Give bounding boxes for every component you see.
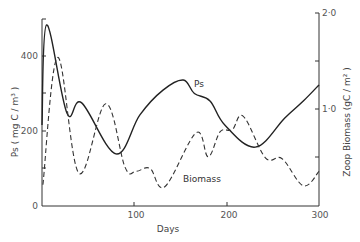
x-axis-title: Days xyxy=(157,224,180,234)
ps-series-label: Ps xyxy=(194,79,204,89)
y-tick-0: 0 xyxy=(32,201,38,211)
y-axis-title: Ps ( mg C / m³ ) xyxy=(10,87,20,157)
x-tick-100: 100 xyxy=(127,210,144,220)
dual-axis-line-chart: 400 200 0 100 200 300 2·0 1·0 Days Ps ( … xyxy=(0,0,360,242)
y2-axis-title: Zoop Biomass (gC / m² ) xyxy=(342,67,352,176)
y2-tick-1: 1·0 xyxy=(322,104,337,114)
x-tick-300: 300 xyxy=(311,210,328,220)
biomass-series-label: Biomass xyxy=(183,174,221,184)
y-tick-200: 200 xyxy=(21,126,38,136)
x-tick-200: 200 xyxy=(220,210,237,220)
ps-series-line xyxy=(42,25,319,154)
biomass-series-line xyxy=(43,57,319,187)
y2-tick-2: 2·0 xyxy=(322,8,337,18)
axes xyxy=(42,13,319,206)
y-tick-400: 400 xyxy=(21,51,38,61)
